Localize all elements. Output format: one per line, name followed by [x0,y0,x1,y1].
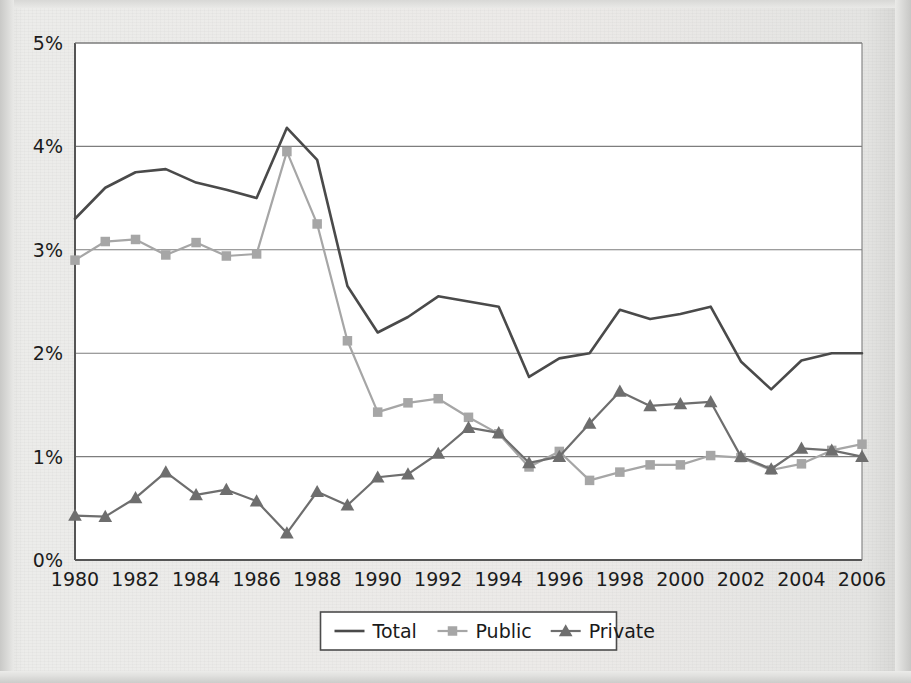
marker-public-1986 [252,249,262,259]
marker-public-1980 [70,255,80,265]
marker-public-1992 [433,394,443,404]
x-tick-label-1996: 1996 [535,568,583,590]
x-tick-label-1984: 1984 [172,568,220,590]
legend-marker-public [448,626,458,636]
x-tick-label-1980: 1980 [51,568,99,590]
x-tick-label-1986: 1986 [232,568,280,590]
marker-public-1983 [161,250,171,260]
x-tick-label-1982: 1982 [111,568,159,590]
legend-label-public: Public [476,620,532,642]
chart-legend: TotalPublicPrivate [321,612,655,650]
y-tick-label-1%: 1% [33,446,63,468]
x-tick-label-1994: 1994 [475,568,523,590]
legend-label-total: Total [372,620,417,642]
marker-public-1989 [343,336,353,346]
x-tick-label-1988: 1988 [293,568,341,590]
y-tick-label-5%: 5% [33,32,63,54]
marker-public-1991 [403,398,413,408]
marker-public-1985 [222,251,232,261]
x-tick-label-2000: 2000 [656,568,704,590]
marker-public-2006 [857,439,867,449]
chart-page: 0%1%2%3%4%5% 198019821984198619881990199… [0,0,911,683]
marker-public-1990 [373,407,383,417]
y-tick-label-2%: 2% [33,342,63,364]
x-tick-label-2006: 2006 [838,568,886,590]
marker-public-1981 [101,237,111,247]
marker-public-1988 [312,219,322,229]
x-axis-tick-labels: 1980198219841986198819901992199419961998… [51,568,886,590]
marker-public-1987 [282,147,292,157]
marker-public-1998 [615,467,625,477]
marker-public-1984 [191,238,201,248]
y-axis-tick-labels: 0%1%2%3%4%5% [33,32,63,571]
marker-public-1999 [645,460,655,470]
marker-public-2004 [797,459,807,469]
marker-public-1993 [464,413,474,423]
x-tick-label-1990: 1990 [354,568,402,590]
x-tick-label-1992: 1992 [414,568,462,590]
legend-label-private: Private [589,620,655,642]
y-tick-label-3%: 3% [33,239,63,261]
x-tick-label-2002: 2002 [717,568,765,590]
marker-public-1982 [131,235,141,245]
x-tick-label-1998: 1998 [596,568,644,590]
marker-public-1997 [585,476,595,486]
marker-public-2000 [676,460,686,470]
line-chart: 0%1%2%3%4%5% 198019821984198619881990199… [0,0,911,683]
y-tick-label-4%: 4% [33,135,63,157]
marker-public-2001 [706,451,716,461]
x-tick-label-2004: 2004 [777,568,825,590]
